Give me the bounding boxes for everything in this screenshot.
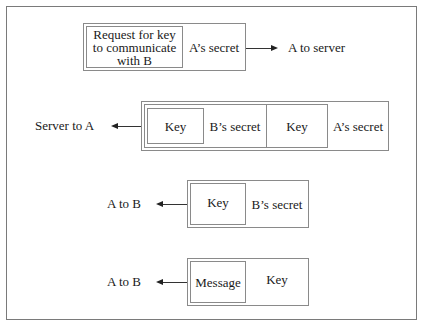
arrow-left-icon: [156, 201, 163, 207]
step4-arrow-line: [160, 282, 187, 283]
step1-a-secret: A’s secret: [183, 26, 245, 68]
step1-arrow-line: [246, 48, 272, 49]
step2-inner-key: Key: [147, 108, 204, 144]
step4-key: Key: [246, 261, 308, 297]
arrow-right-icon: [271, 45, 278, 51]
step2-outer-key: Key: [267, 104, 327, 148]
step1-direction-label: A to server: [288, 41, 345, 55]
arrow-left-icon: [111, 123, 118, 129]
step2-a-secret: A’s secret: [328, 104, 388, 148]
step3-key: Key: [190, 183, 246, 221]
step3-b-secret: B’s secret: [246, 183, 308, 225]
step2-direction-label: Server to A: [35, 119, 94, 133]
step3-direction-label: A to B: [107, 197, 141, 211]
step4-message: Message: [190, 261, 246, 303]
arrow-left-icon: [156, 279, 163, 285]
step2-arrow-line: [115, 126, 141, 127]
step2-b-secret: B’s secret: [204, 104, 266, 148]
step3-arrow-line: [160, 204, 187, 205]
step1-request-line3: with B: [86, 54, 183, 67]
step4-direction-label: A to B: [107, 275, 141, 289]
